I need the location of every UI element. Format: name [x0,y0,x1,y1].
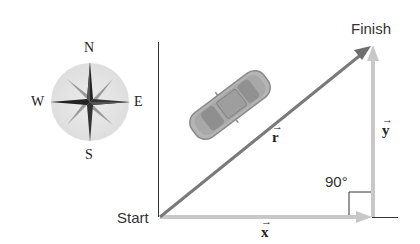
compass-west-label: W [31,94,44,110]
y-component-arrow [367,45,379,217]
start-label: Start [117,209,149,226]
resultant-vector-arrow [160,46,371,217]
vector-arrow-icon: → [261,215,272,227]
vector-x-label: → x [261,224,269,241]
vector-y-label: → y [382,122,390,139]
compass-north-label: N [84,40,94,56]
vector-arrow-icon: → [272,120,283,132]
finish-label: Finish [351,20,391,37]
vector-r-label: → r [272,129,279,146]
displacement-diagram: N S E W Start Finish 90° → r → y → x [0,0,420,244]
compass-south-label: S [85,147,93,163]
compass-rose-icon [50,62,130,142]
compass-east-label: E [134,94,143,110]
vector-arrow-icon: → [382,113,393,125]
angle-label: 90° [325,173,348,190]
